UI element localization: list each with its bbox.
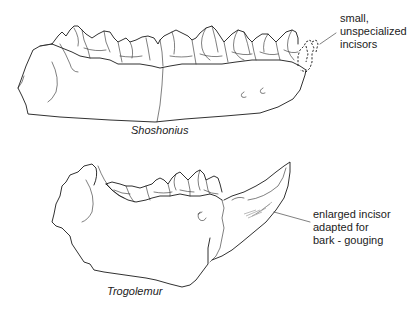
incisor-annotation-line-3: incisors [340,38,407,51]
incisor-annotation-line-1: small, [340,12,407,25]
shoshonius-jaw [18,26,318,122]
figure-canvas: Shoshonius small, unspecialized incisors… [0,0,419,312]
trogolemur-jaw [52,162,290,287]
incisor-annotation-line-2: unspecialized [340,25,407,38]
enlarged-annotation-line-2: adapted for [313,221,391,234]
enlarged-annotation-line-3: bark - gouging [313,234,391,247]
incisor-leader-line [320,33,336,44]
trogolemur-label: Trogolemur [107,285,162,298]
enlarged-incisor-leader-line [274,212,310,222]
enlarged-incisor-annotation: enlarged incisor adapted for bark - goug… [313,208,391,247]
incisor-annotation: small, unspecialized incisors [340,12,407,51]
shoshonius-label: Shoshonius [131,124,189,137]
enlarged-annotation-line-1: enlarged incisor [313,208,391,221]
